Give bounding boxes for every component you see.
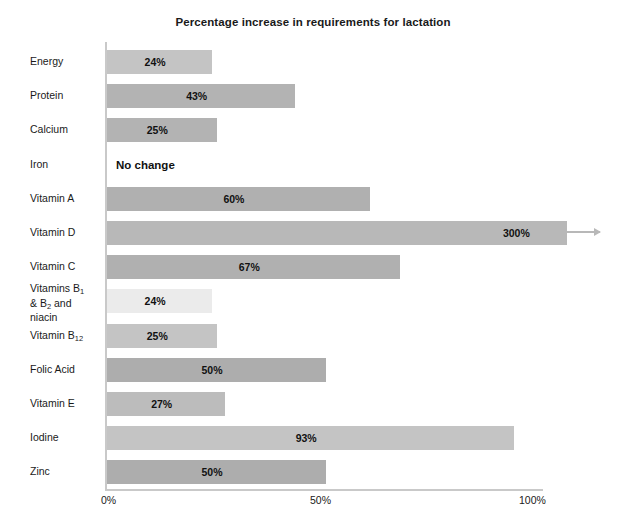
bar-row: IronNo change [0, 148, 626, 182]
bar-row: Calcium25% [0, 113, 626, 147]
x-tick-label-0: 0% [101, 494, 116, 506]
bar-value-label: 24% [145, 50, 166, 74]
bar-row: Vitamin E27% [0, 387, 626, 421]
bar-row: Energy24% [0, 45, 626, 79]
category-label: Iron [30, 158, 102, 171]
category-label: Protein [30, 89, 102, 102]
bar-value-label: 300% [503, 221, 530, 245]
bar-value-label: 25% [147, 118, 168, 142]
chart-container: Percentage increase in requirements for … [0, 0, 626, 513]
bar-row: Vitamin B1225% [0, 319, 626, 353]
bar-row: Vitamins B1& B2 andniacin24% [0, 284, 626, 318]
x-tick-label-50: 50% [310, 494, 331, 506]
category-label: Vitamin D [30, 226, 102, 239]
bar-value-label: 50% [202, 358, 223, 382]
category-label: Vitamin B12 [30, 329, 102, 344]
category-label: Folic Acid [30, 363, 102, 376]
x-tick-label-100: 100% [519, 494, 546, 506]
bar-row: Iodine93% [0, 421, 626, 455]
no-change-label: No change [116, 153, 175, 177]
bar-value-label: 93% [296, 426, 317, 450]
category-label: Vitamin E [30, 397, 102, 410]
bar-value-label: 60% [223, 187, 244, 211]
bar-value-label: 25% [147, 324, 168, 348]
category-label: Vitamin C [30, 260, 102, 273]
bar-value-label: 67% [239, 255, 260, 279]
bar-row: Folic Acid50% [0, 353, 626, 387]
bar-value-label: 24% [145, 289, 166, 313]
bar [107, 221, 567, 245]
bar-row: Vitamin D300% [0, 216, 626, 250]
bar-row: Vitamin A60% [0, 182, 626, 216]
bar-row: Protein43% [0, 79, 626, 113]
bar-row: Vitamin C67% [0, 250, 626, 284]
category-label: Energy [30, 55, 102, 68]
bar-value-label: 27% [151, 392, 172, 416]
category-label: Zinc [30, 465, 102, 478]
category-label: Iodine [30, 431, 102, 444]
bar-row: Zinc50% [0, 455, 626, 489]
category-label: Vitamin A [30, 192, 102, 205]
overflow-arrow-icon [567, 231, 600, 233]
bar-value-label: 50% [202, 460, 223, 484]
category-label: Calcium [30, 123, 102, 136]
plot-area: Energy24%Protein43%Calcium25%IronNo chan… [0, 0, 626, 513]
bar-value-label: 43% [186, 84, 207, 108]
